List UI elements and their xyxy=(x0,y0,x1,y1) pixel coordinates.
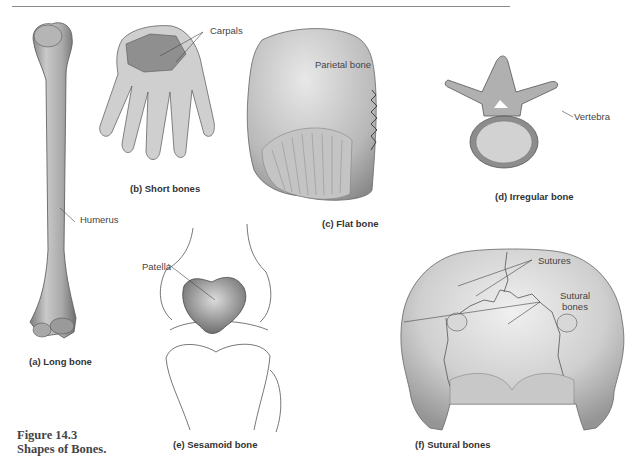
label-sutural-line1: Sutural xyxy=(560,291,590,301)
caption-short-bones: (b) Short bones xyxy=(130,184,200,194)
caption-flat-bone: (c) Flat bone xyxy=(322,219,378,229)
label-vertebra: Vertebra xyxy=(574,112,610,122)
label-patella: Patella xyxy=(142,262,171,272)
label-carpals: Carpals xyxy=(210,26,243,36)
skull-illustration xyxy=(401,249,624,430)
vertebra-illustration xyxy=(445,56,573,168)
humerus-illustration xyxy=(30,23,76,338)
figure-title: Shapes of Bones. xyxy=(17,442,106,456)
bone-illustrations xyxy=(0,0,638,469)
label-sutures: Sutures xyxy=(538,256,571,266)
figure-number: Figure 14.3 xyxy=(17,428,106,442)
label-humerus: Humerus xyxy=(80,215,119,225)
caption-long-bone: (a) Long bone xyxy=(29,357,92,367)
parietal-bone-illustration xyxy=(247,29,377,201)
patella-shape xyxy=(183,277,246,333)
label-sutural-line2: bones xyxy=(562,302,588,312)
hand-illustration xyxy=(100,26,215,160)
caption-sutural-bones: (f) Sutural bones xyxy=(415,440,490,450)
label-parietal-bone: Parietal bone xyxy=(315,60,371,70)
caption-sesamoid-bone: (e) Sesamoid bone xyxy=(173,440,257,450)
caption-irregular-bone: (d) Irregular bone xyxy=(495,192,574,202)
figure-caption: Figure 14.3 Shapes of Bones. xyxy=(17,428,106,456)
